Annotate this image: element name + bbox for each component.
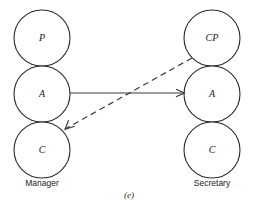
ego-state-manager-parent: P [14,10,70,66]
ego-state-label: C [39,144,46,155]
ego-state-label: A [208,88,216,99]
transaction-arrow-critical-parent-to-child [65,58,192,129]
ego-state-manager-child: C [14,122,70,178]
party-label-secretary: Secretary [194,178,231,188]
party-group-manager: P A C Manager [14,10,70,188]
transactional-analysis-diagram: P A C Manager CP A C [0,0,258,211]
ego-state-secretary-critical-parent: CP [184,10,240,66]
transaction-arrow-adult-to-adult [70,89,185,97]
ego-state-label: A [38,88,46,99]
ego-state-secretary-adult: A [184,66,240,122]
ego-state-label: P [38,32,45,43]
party-group-secretary: CP A C Secretary [184,10,240,188]
figure-container: P A C Manager CP A C [0,0,258,211]
party-label-manager: Manager [25,178,59,188]
figure-caption: (e) [124,190,134,200]
ego-state-secretary-child: C [184,122,240,178]
ego-state-label: C [209,144,216,155]
ego-state-manager-adult: A [14,66,70,122]
ego-state-label: CP [206,32,219,43]
